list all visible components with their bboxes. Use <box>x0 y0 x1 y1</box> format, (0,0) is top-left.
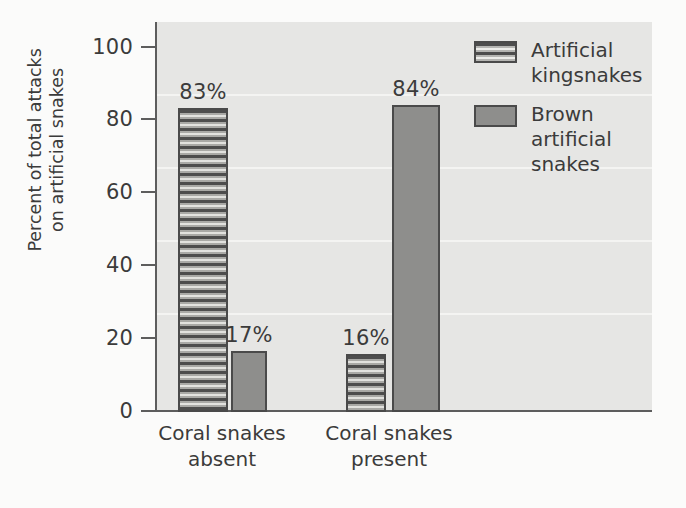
y-axis-line <box>155 22 157 411</box>
bar-value-brown-present: 84% <box>392 77 439 101</box>
y-tick-label-40: 40 <box>81 253 133 277</box>
legend: Artificial kingsnakes Brown artificial s… <box>474 38 664 191</box>
y-tick-label-60: 60 <box>81 180 133 204</box>
bar-value-kingsnakes-absent: 83% <box>179 80 226 104</box>
legend-item-brown: Brown artificial snakes <box>474 102 664 177</box>
legend-label-kingsnakes-line-1: Artificial <box>531 38 642 63</box>
y-axis-title-line-1: Percent of total attacks <box>25 20 47 280</box>
bar-kingsnakes-present <box>346 354 386 412</box>
y-axis-title-line-2: on artificial snakes <box>47 20 69 280</box>
y-axis-title: Percent of total attacks on artificial s… <box>25 20 69 280</box>
bar-value-kingsnakes-present: 16% <box>342 326 389 350</box>
bar-brown-absent <box>231 351 267 412</box>
legend-label-brown-line-3: snakes <box>531 152 612 177</box>
legend-swatch-solid-icon <box>474 105 517 127</box>
bar-brown-present <box>392 105 440 412</box>
y-tick-label-100: 100 <box>81 35 133 59</box>
y-tick-mark-20 <box>141 337 155 339</box>
bar-value-brown-absent: 17% <box>225 323 272 347</box>
bar-kingsnakes-absent <box>178 108 228 412</box>
x-group-label-present-line-1: Coral snakes <box>274 420 504 446</box>
legend-label-brown-line-1: Brown <box>531 102 612 127</box>
legend-swatch-striped-icon <box>474 41 517 63</box>
y-tick-mark-0 <box>141 410 155 412</box>
legend-label-brown-line-2: artificial <box>531 127 612 152</box>
y-tick-label-20: 20 <box>81 326 133 350</box>
legend-item-kingsnakes: Artificial kingsnakes <box>474 38 664 88</box>
legend-label-kingsnakes-line-2: kingsnakes <box>531 63 642 88</box>
legend-label-brown: Brown artificial snakes <box>531 102 612 177</box>
y-tick-mark-100 <box>141 46 155 48</box>
y-tick-mark-80 <box>141 118 155 120</box>
y-tick-mark-60 <box>141 191 155 193</box>
legend-label-kingsnakes: Artificial kingsnakes <box>531 38 642 88</box>
x-group-label-present-line-2: present <box>274 446 504 472</box>
y-tick-label-80: 80 <box>81 107 133 131</box>
bar-chart-figure: 100 80 60 40 20 0 Percent of total attac… <box>0 0 686 508</box>
x-group-label-present: Coral snakes present <box>274 420 504 472</box>
y-tick-mark-40 <box>141 264 155 266</box>
